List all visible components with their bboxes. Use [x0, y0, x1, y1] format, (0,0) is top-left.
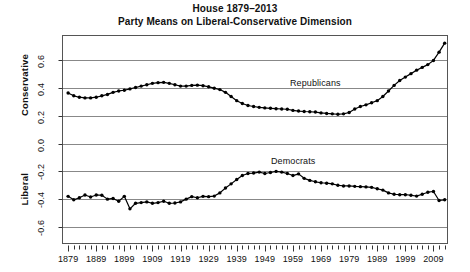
- data-point: [168, 202, 171, 205]
- data-point: [319, 111, 322, 114]
- data-point: [342, 184, 345, 187]
- data-point: [437, 199, 440, 202]
- data-point: [201, 84, 204, 87]
- data-point: [213, 194, 216, 197]
- data-point: [269, 107, 272, 110]
- data-point: [106, 93, 109, 96]
- data-point: [83, 193, 86, 196]
- data-point: [353, 107, 356, 110]
- data-point: [83, 96, 86, 99]
- data-point: [162, 81, 165, 84]
- data-point: [336, 113, 339, 116]
- data-point: [347, 111, 350, 114]
- data-point: [123, 195, 126, 198]
- data-point: [196, 83, 199, 86]
- data-point: [421, 193, 424, 196]
- data-point: [336, 184, 339, 187]
- data-point: [128, 207, 131, 210]
- x-axis-ticks: [69, 246, 446, 252]
- chart-root: House 1879–2013 Party Means on Liberal-C…: [0, 0, 470, 272]
- series-annotation-democrats: Democrats: [271, 156, 315, 166]
- data-point: [162, 200, 165, 203]
- data-point: [398, 79, 401, 82]
- data-point: [229, 182, 232, 185]
- data-point: [387, 191, 390, 194]
- data-point: [274, 107, 277, 110]
- data-point: [134, 202, 137, 205]
- data-point: [106, 197, 109, 200]
- data-point: [392, 193, 395, 196]
- data-point: [179, 200, 182, 203]
- data-point: [218, 88, 221, 91]
- data-point: [347, 184, 350, 187]
- data-point: [421, 66, 424, 69]
- data-point: [437, 50, 440, 53]
- data-point: [241, 102, 244, 105]
- series-line-republicans: [68, 43, 445, 114]
- data-point: [66, 195, 69, 198]
- data-point: [151, 202, 154, 205]
- data-point: [432, 190, 435, 193]
- data-point: [179, 84, 182, 87]
- data-point: [229, 95, 232, 98]
- data-series: [66, 41, 446, 210]
- data-point: [145, 200, 148, 203]
- data-point: [252, 171, 255, 174]
- data-point: [190, 84, 193, 87]
- chart-title-line-2: Party Means on Liberal-Conservative Dime…: [0, 16, 470, 29]
- data-point: [426, 63, 429, 66]
- y-axis-tick-label: -0.2: [36, 158, 46, 186]
- x-axis-tick-label: 2009: [417, 254, 449, 264]
- data-point: [415, 68, 418, 71]
- data-point: [314, 180, 317, 183]
- data-point: [415, 194, 418, 197]
- data-point: [156, 81, 159, 84]
- data-point: [325, 181, 328, 184]
- data-point: [252, 105, 255, 108]
- data-point: [78, 96, 81, 99]
- data-point: [184, 84, 187, 87]
- data-point: [190, 195, 193, 198]
- data-point: [139, 84, 142, 87]
- data-point: [72, 198, 75, 201]
- y-axis-label-liberal: Liberal: [19, 173, 30, 206]
- data-point: [213, 86, 216, 89]
- data-point: [123, 89, 126, 92]
- data-point: [139, 201, 142, 204]
- data-point: [235, 178, 238, 181]
- y-axis-tick-label: -0.6: [36, 214, 46, 242]
- data-point: [404, 75, 407, 78]
- data-point: [78, 196, 81, 199]
- plot-frame: [63, 36, 448, 244]
- data-point: [258, 106, 261, 109]
- data-point: [173, 201, 176, 204]
- data-point: [302, 110, 305, 113]
- data-point: [207, 195, 210, 198]
- data-point: [100, 94, 103, 97]
- data-point: [274, 170, 277, 173]
- series-line-democrats: [68, 171, 445, 208]
- y-axis-tick-label: 0.2: [36, 103, 46, 131]
- data-point: [66, 91, 69, 94]
- data-point: [156, 201, 159, 204]
- data-point: [353, 185, 356, 188]
- y-axis-label-conservative: Conservative: [19, 54, 30, 116]
- data-point: [145, 83, 148, 86]
- data-point: [364, 103, 367, 106]
- data-point: [331, 182, 334, 185]
- data-point: [359, 105, 362, 108]
- chart-title: House 1879–2013 Party Means on Liberal-C…: [0, 3, 470, 28]
- data-point: [128, 87, 131, 90]
- data-point: [342, 112, 345, 115]
- data-point: [308, 110, 311, 113]
- series-annotation-republicans: Republicans: [290, 78, 341, 88]
- data-point: [258, 170, 261, 173]
- data-point: [263, 172, 266, 175]
- data-point: [443, 198, 446, 201]
- data-point: [269, 171, 272, 174]
- data-point: [196, 196, 199, 199]
- y-axis-tick-label: 0.0: [36, 131, 46, 159]
- data-point: [319, 181, 322, 184]
- data-point: [235, 99, 238, 102]
- data-point: [376, 99, 379, 102]
